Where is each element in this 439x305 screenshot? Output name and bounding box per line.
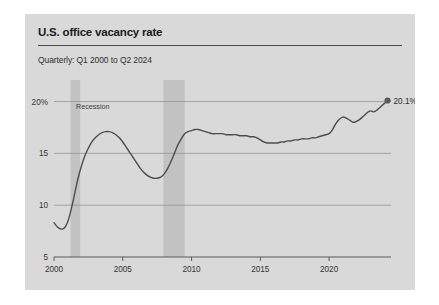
endpoint-dot: [384, 97, 390, 103]
vacancy-rate-line: [54, 101, 388, 230]
chart-annotations: Recession20.1%: [76, 97, 415, 111]
series-line-vacancy-rate: [54, 101, 388, 230]
line-chart-svg: 5101520% 20002005201020152020 Recession2…: [25, 14, 415, 290]
y-tick-label-20: 20%: [32, 98, 48, 107]
x-axis-labels: 20002005201020152020: [45, 265, 339, 274]
x-tick-label-2010: 2010: [182, 265, 201, 274]
y-tick-label-5: 5: [43, 253, 48, 262]
x-tick-label-2005: 2005: [114, 265, 133, 274]
endpoint-value-label: 20.1%: [394, 97, 415, 106]
recession-2008: [163, 80, 184, 257]
chart-plot-area: 5101520% 20002005201020152020 Recession2…: [25, 14, 415, 290]
chart-card: U.S. office vacancy rate Quarterly: Q1 2…: [25, 14, 415, 290]
x-tick-label-2020: 2020: [320, 265, 339, 274]
x-tick-label-2000: 2000: [45, 265, 64, 274]
recession-label: Recession: [76, 102, 110, 111]
axis: [54, 257, 391, 261]
x-tick-label-2015: 2015: [251, 265, 270, 274]
y-axis-labels: 5101520%: [32, 98, 49, 262]
gridlines: [54, 102, 391, 206]
y-tick-label-10: 10: [39, 201, 49, 210]
y-tick-label-15: 15: [39, 149, 49, 158]
